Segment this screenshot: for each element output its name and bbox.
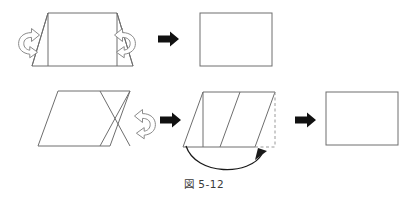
- swing-arrow-head: [255, 148, 267, 160]
- trapezoid-outline: [32, 13, 133, 66]
- parallelogram-with-crossed-creases: [38, 91, 130, 146]
- figure-5-12: 図 5-12: [0, 0, 408, 199]
- figure-diagram-canvas: [0, 0, 408, 199]
- figure-caption: 図 5-12: [0, 176, 408, 191]
- fold-swing-arrow-icon: [186, 146, 267, 170]
- fold-arrow-icon: [135, 110, 156, 139]
- swing-arrow-curve: [186, 146, 262, 170]
- trapezoid-with-inscribed-rectangle: [32, 13, 133, 66]
- process-arrow-icon: [158, 31, 179, 46]
- fold-arrow-left-icon: [19, 29, 40, 58]
- folded-parallelogram-outline: [183, 92, 275, 147]
- result-rectangle: [326, 92, 398, 145]
- row-2-group: [38, 91, 398, 170]
- row-1-group: [19, 13, 272, 66]
- result-rectangle: [200, 13, 272, 66]
- parallelogram-outline: [38, 91, 130, 146]
- partially-folded-parallelogram: [183, 92, 275, 147]
- process-arrow-icon: [160, 112, 181, 127]
- process-arrow-icon: [295, 112, 316, 127]
